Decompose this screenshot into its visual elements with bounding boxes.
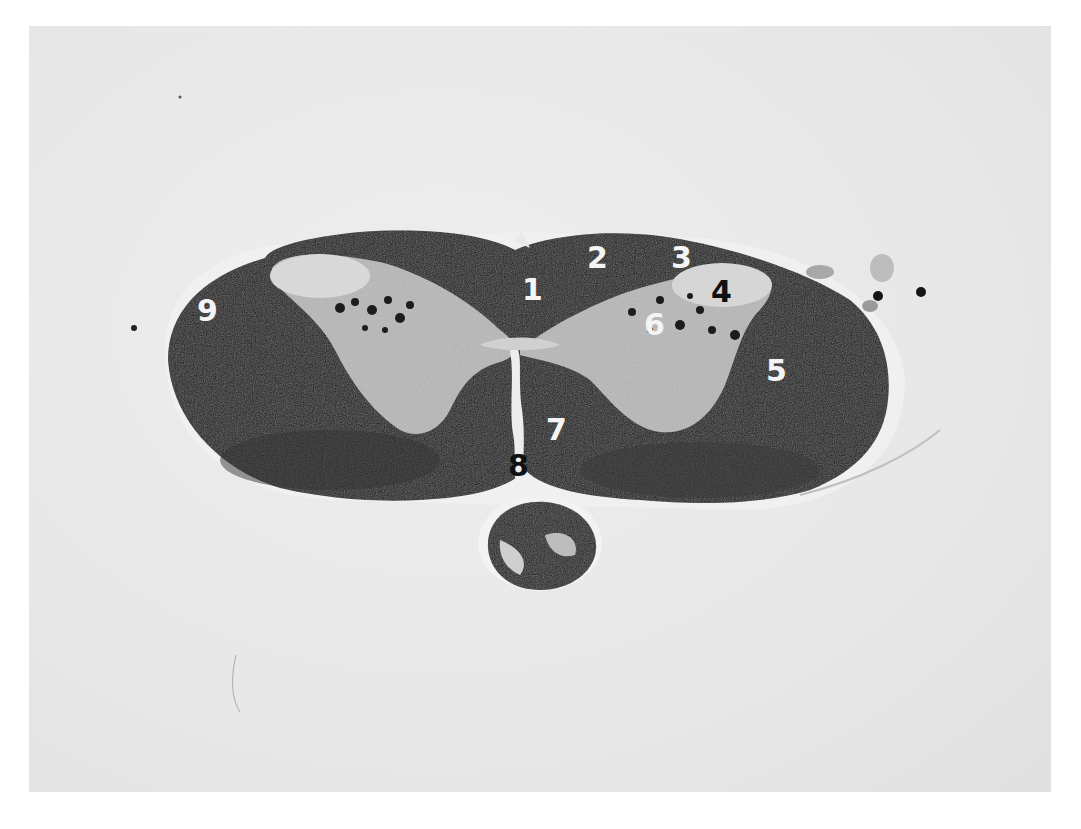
spinal-cord-section (0, 0, 1081, 829)
label-5: 5 (766, 356, 787, 386)
ventral-white-matter-left (220, 430, 440, 490)
thread-arc (233, 655, 240, 712)
label-1: 1 (522, 275, 543, 305)
label-7: 7 (546, 415, 567, 445)
dorsal-horn-left (270, 254, 370, 298)
label-2: 2 (587, 243, 608, 273)
label-3: 3 (671, 243, 692, 273)
label-6: 6 (644, 310, 665, 340)
label-9: 9 (197, 296, 218, 326)
ventral-white-matter-right (580, 442, 820, 498)
label-8: 8 (508, 451, 529, 481)
label-4: 4 (711, 277, 732, 307)
